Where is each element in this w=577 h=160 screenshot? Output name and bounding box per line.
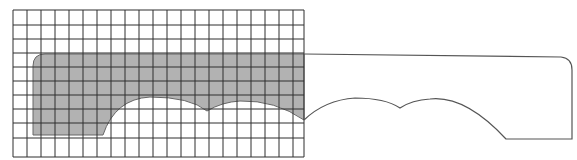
shape-diagram [0, 0, 577, 160]
unshaded-shape-outline [304, 54, 572, 139]
outline-layer [304, 54, 572, 139]
